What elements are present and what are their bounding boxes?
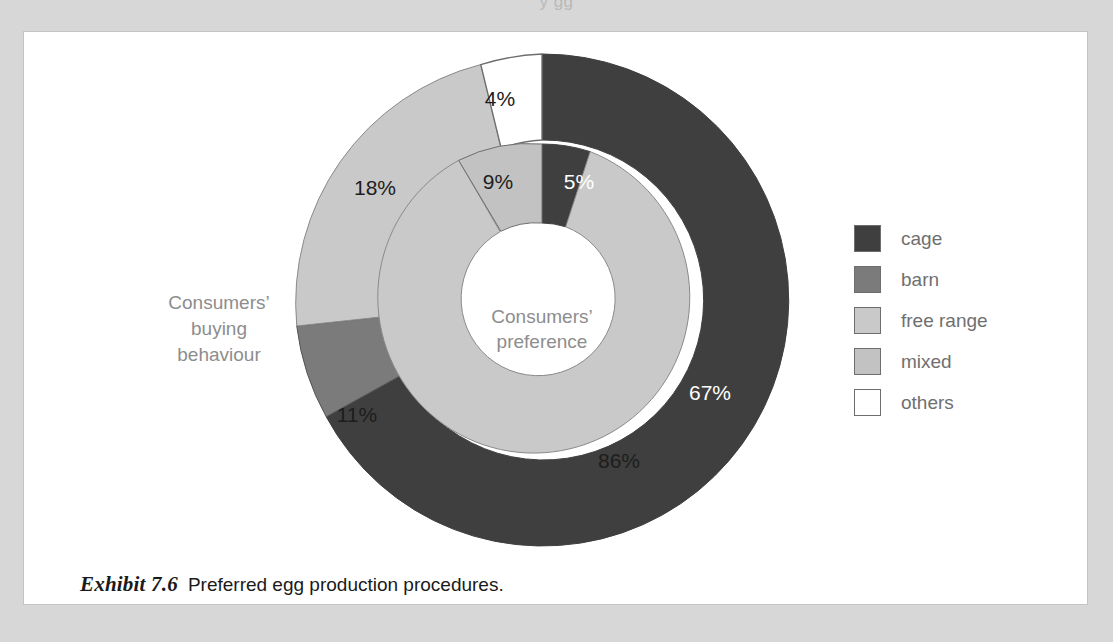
center-label-line2: preference	[497, 331, 588, 352]
legend-label-others: others	[901, 392, 954, 414]
exhibit-card: 67% 11% 18% 4% 5% 86% 9% Consumers’ pref…	[24, 32, 1087, 604]
donut-chart-svg: 67% 11% 18% 4% 5% 86% 9% Consumers’ pref…	[282, 40, 802, 560]
legend-item-mixed[interactable]: mixed	[854, 341, 1054, 382]
outer-label-free-range: 18%	[354, 176, 396, 199]
inner-label-free-range: 86%	[598, 449, 640, 472]
outer-label-cage: 67%	[689, 381, 731, 404]
chart-legend: cage barn free range mixed others	[854, 218, 1054, 423]
page-bleed-text: y gg	[0, 0, 1113, 12]
center-label-line1: Consumers’	[491, 306, 592, 327]
exhibit-caption: Exhibit 7.6Preferred egg production proc…	[80, 572, 504, 597]
legend-swatch-cage	[854, 225, 881, 252]
legend-label-free-range: free range	[901, 310, 988, 332]
legend-swatch-free-range	[854, 307, 881, 334]
legend-item-cage[interactable]: cage	[854, 218, 1054, 259]
outer-label-barn: 11%	[337, 403, 377, 426]
legend-label-mixed: mixed	[901, 351, 952, 373]
exhibit-number: Exhibit 7.6	[80, 572, 178, 596]
outer-ring	[296, 54, 789, 546]
inner-ring	[378, 143, 690, 453]
legend-item-free-range[interactable]: free range	[854, 300, 1054, 341]
inner-label-mixed: 9%	[483, 170, 513, 193]
outer-label-others: 4%	[485, 87, 515, 110]
legend-label-barn: barn	[901, 269, 939, 291]
legend-swatch-mixed	[854, 348, 881, 375]
exhibit-title: Preferred egg production procedures.	[188, 574, 504, 595]
outer-ring-annotation-line2: buying	[124, 316, 314, 342]
legend-item-others[interactable]: others	[854, 382, 1054, 423]
legend-label-cage: cage	[901, 228, 942, 250]
legend-swatch-others	[854, 389, 881, 416]
outer-ring-annotation: Consumers’ buying behaviour	[124, 290, 314, 368]
donut-chart: 67% 11% 18% 4% 5% 86% 9% Consumers’ pref…	[282, 40, 802, 560]
outer-ring-annotation-line3: behaviour	[124, 342, 314, 368]
inner-label-cage: 5%	[564, 170, 594, 193]
outer-ring-annotation-line1: Consumers’	[124, 290, 314, 316]
legend-item-barn[interactable]: barn	[854, 259, 1054, 300]
legend-swatch-barn	[854, 266, 881, 293]
